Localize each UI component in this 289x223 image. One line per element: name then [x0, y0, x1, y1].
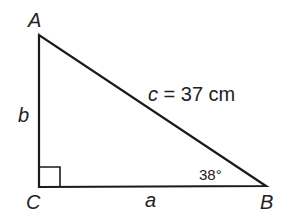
vertex-b-label: B: [260, 192, 273, 212]
triangle-diagram: A b C a B 38° c = 37 cm: [0, 0, 289, 223]
hypotenuse-label: c = 37 cm: [148, 84, 235, 104]
vertex-c-label: C: [26, 192, 40, 212]
hypotenuse-value: 37 cm: [181, 83, 235, 105]
side-a-label: a: [145, 190, 156, 210]
angle-b-label: 38°: [199, 167, 222, 182]
hypotenuse-var: c: [148, 83, 158, 105]
equals-sign: =: [164, 83, 176, 105]
right-angle-marker: [39, 167, 60, 187]
vertex-a-label: A: [28, 10, 41, 30]
side-b-label: b: [18, 105, 29, 125]
